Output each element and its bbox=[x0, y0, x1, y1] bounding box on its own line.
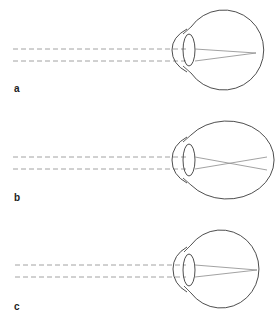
refracted-ray-top bbox=[195, 265, 257, 270]
panel-label-a: a bbox=[14, 84, 20, 94]
cornea bbox=[173, 247, 187, 292]
eyeball-globe bbox=[191, 10, 264, 90]
eyeball-globe bbox=[191, 121, 274, 199]
cornea bbox=[172, 137, 187, 183]
eye-panel-b bbox=[13, 121, 274, 199]
panel-label-c: c bbox=[14, 302, 20, 312]
panel-label-b: b bbox=[14, 193, 20, 203]
lens bbox=[183, 254, 195, 286]
refracted-ray-bottom bbox=[195, 53, 256, 61]
refracted-ray-bottom bbox=[195, 270, 257, 277]
eye-diagram bbox=[0, 0, 278, 324]
lens bbox=[183, 34, 195, 66]
iris bbox=[183, 135, 191, 185]
lens bbox=[183, 144, 195, 176]
refracted-ray-top bbox=[195, 49, 256, 53]
eye-panel-a bbox=[13, 10, 264, 90]
cornea bbox=[172, 29, 187, 72]
eye-panel-c bbox=[15, 230, 259, 308]
